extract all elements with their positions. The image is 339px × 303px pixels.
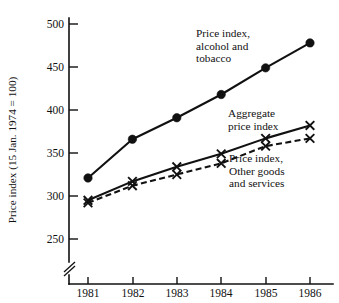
data-point-marker [261, 64, 269, 72]
y-tick-label-450: 450 [47, 61, 65, 73]
annotation-alcohol-and-tobacco: Price index,alcohol andtobacco [196, 27, 250, 65]
annotation-aggregate-line-1: Aggregate [228, 107, 275, 119]
y-tick-label-350: 350 [47, 147, 65, 159]
data-point-marker [84, 174, 92, 182]
annotation-alcohol-line-3: tobacco [196, 52, 231, 64]
x-tick-label-1981: 1981 [77, 287, 100, 299]
price-index-line-chart: 500 450 400 350 300 250 Price index (15 … [0, 0, 339, 303]
data-point-marker [128, 135, 136, 143]
data-point-marker [306, 39, 314, 47]
y-axis-title: Price index (15 Jan. 1974 = 100) [6, 77, 19, 224]
annotation-other-line-3: and services [229, 177, 285, 189]
x-tick-label-1982: 1982 [122, 287, 145, 299]
annotation-alcohol-line-2: alcohol and [196, 40, 248, 52]
y-tick-label-500: 500 [47, 18, 65, 30]
x-tick-label-1986: 1986 [299, 287, 322, 299]
annotation-aggregate-line-2: price index [228, 120, 279, 132]
annotation-alcohol-line-1: Price index, [196, 27, 250, 39]
chart-canvas: 500 450 400 350 300 250 Price index (15 … [0, 0, 339, 303]
y-tick-label-400: 400 [47, 104, 65, 116]
x-tick-label-1983: 1983 [166, 287, 189, 299]
y-tick-label-300: 300 [47, 190, 65, 202]
x-tick-label-1985: 1985 [255, 287, 278, 299]
annotation-aggregate-price-index: Aggregateprice index [228, 107, 279, 132]
data-point-marker [173, 114, 181, 122]
annotation-other-goods-and-services: Price index,Other goodsand services [229, 152, 285, 190]
data-point-marker [217, 90, 225, 98]
y-tick-label-250: 250 [47, 233, 65, 245]
x-tick-label-1984: 1984 [210, 287, 233, 299]
annotation-other-line-2: Other goods [229, 165, 285, 177]
annotation-other-line-1: Price index, [229, 152, 283, 164]
